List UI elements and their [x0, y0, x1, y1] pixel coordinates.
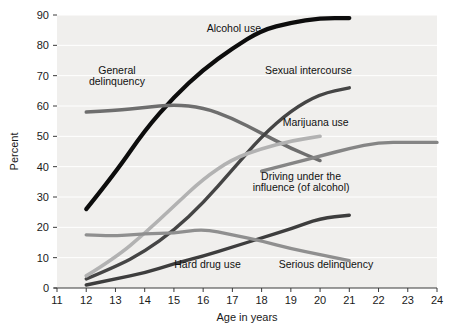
y-tick-label-30: 30: [37, 191, 49, 203]
series-label-alcohol-use: Alcohol use: [207, 22, 261, 34]
y-tick-label-20: 20: [37, 221, 49, 233]
series-label-sexual-intercourse: Sexual intercourse: [265, 64, 352, 76]
y-tick-label-90: 90: [37, 9, 49, 21]
series-label-serious-delinquency: Serious delinquency: [279, 258, 374, 270]
y-axis-title: Percent: [8, 133, 20, 171]
x-axis-title: Age in years: [216, 311, 278, 323]
x-tick-label-18: 18: [255, 294, 267, 306]
x-tick-label-11: 11: [51, 294, 62, 306]
y-tick-label-50: 50: [37, 130, 49, 142]
series-label-general-delinquency-line2: delinquency: [89, 75, 146, 87]
line-chart: 1112131415161718192021222324010203040506…: [0, 0, 454, 329]
y-tick-label-10: 10: [37, 252, 49, 264]
x-tick-label-22: 22: [372, 294, 384, 306]
x-tick-label-19: 19: [285, 294, 297, 306]
y-tick-label-40: 40: [37, 161, 49, 173]
x-tick-label-24: 24: [431, 294, 443, 306]
y-tick-label-80: 80: [37, 39, 49, 51]
x-tick-label-12: 12: [80, 294, 92, 306]
series-label-driving-under-the-influence-of-alcohol-line2: influence (of alcohol): [253, 181, 350, 193]
x-tick-label-13: 13: [109, 294, 121, 306]
x-tick-label-23: 23: [402, 294, 414, 306]
y-tick-label-60: 60: [37, 100, 49, 112]
y-tick-label-70: 70: [37, 70, 49, 82]
series-label-marijuana-use: Marijuana use: [283, 116, 349, 128]
x-tick-label-14: 14: [139, 294, 151, 306]
chart-container: 1112131415161718192021222324010203040506…: [0, 0, 454, 329]
x-tick-label-21: 21: [343, 294, 355, 306]
series-label-hard-drug-use: Hard drug use: [174, 258, 241, 270]
x-tick-label-16: 16: [197, 294, 209, 306]
x-tick-label-17: 17: [226, 294, 238, 306]
x-tick-label-20: 20: [314, 294, 326, 306]
y-tick-label-0: 0: [43, 282, 49, 294]
x-tick-label-15: 15: [168, 294, 180, 306]
